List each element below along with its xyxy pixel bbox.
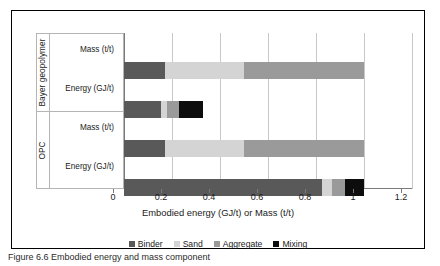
bar-segment-binder xyxy=(124,101,161,118)
legend-label-sand: Sand xyxy=(183,239,203,249)
gridline-0.6 xyxy=(268,33,269,189)
y-axis-group-bayer-label: Bayer geopolymer xyxy=(38,38,47,106)
x-tick-label-0.6: 0.6 xyxy=(242,192,272,202)
legend-label-aggregate: Aggregate xyxy=(223,239,263,249)
x-tick-label-0.2: 0.2 xyxy=(146,192,176,202)
bar-segment-sand xyxy=(165,62,244,79)
y-axis-group-bayer: Bayer geopolymer xyxy=(36,33,49,111)
y-axis-category-bayer-mass: Mass (t/t) xyxy=(49,45,119,54)
chart-legend: Binder Sand Aggregate Mixing xyxy=(12,239,424,249)
chart-frame: Bayer geopolymer OPC Mass (t/t) Energy (… xyxy=(11,10,425,249)
gridline-1.2 xyxy=(412,33,413,189)
figure-container: Bayer geopolymer OPC Mass (t/t) Energy (… xyxy=(0,0,440,266)
y-axis-category-opc-energy: Energy (GJ/t) xyxy=(49,162,119,171)
bar-bayer-energy xyxy=(124,101,203,118)
x-tick-label-0.4: 0.4 xyxy=(194,192,224,202)
legend-swatch-aggregate xyxy=(214,241,220,247)
gridline-0.4 xyxy=(220,33,221,189)
plot-area xyxy=(124,33,412,189)
x-axis-title: Embodied energy (GJ/t) or Mass (t/t) xyxy=(12,207,424,218)
legend-item-sand[interactable]: Sand xyxy=(174,239,203,249)
x-tick-label-0.8: 0.8 xyxy=(290,192,320,202)
y-axis-group-opc-label: OPC xyxy=(38,141,47,159)
gridline-1.0 xyxy=(364,33,365,189)
y-axis-group-opc: OPC xyxy=(36,111,49,189)
y-axis-group-split xyxy=(36,111,124,112)
x-tick-label-1.2: 1.2 xyxy=(386,192,416,202)
bar-segment-sand xyxy=(165,140,244,157)
bar-segment-aggregate xyxy=(244,140,364,157)
bar-segment-mixing xyxy=(179,101,203,118)
legend-swatch-mixing xyxy=(273,241,279,247)
y-axis-category-bayer-energy: Energy (GJ/t) xyxy=(49,84,119,93)
bar-segment-binder xyxy=(124,140,165,157)
legend-item-aggregate[interactable]: Aggregate xyxy=(214,239,263,249)
bar-segment-sand xyxy=(322,179,332,196)
gridline-0.8 xyxy=(316,33,317,189)
bar-segment-aggregate xyxy=(244,62,364,79)
bar-opc-mass xyxy=(124,140,364,157)
legend-label-binder: Binder xyxy=(138,239,163,249)
x-tick-label-1: 1 xyxy=(338,192,368,202)
legend-item-binder[interactable]: Binder xyxy=(129,239,163,249)
legend-swatch-binder xyxy=(129,241,135,247)
legend-label-mixing: Mixing xyxy=(282,239,307,249)
bar-segment-binder xyxy=(124,62,165,79)
figure-caption: Figure 6.6 Embodied energy and mass comp… xyxy=(8,252,438,262)
bar-segment-aggregate xyxy=(167,101,179,118)
legend-swatch-sand xyxy=(174,241,180,247)
y-axis-category-opc-mass: Mass (t/t) xyxy=(49,123,119,132)
legend-item-mixing[interactable]: Mixing xyxy=(273,239,307,249)
x-tick-label-0: 0 xyxy=(98,192,128,202)
bar-bayer-mass xyxy=(124,62,364,79)
